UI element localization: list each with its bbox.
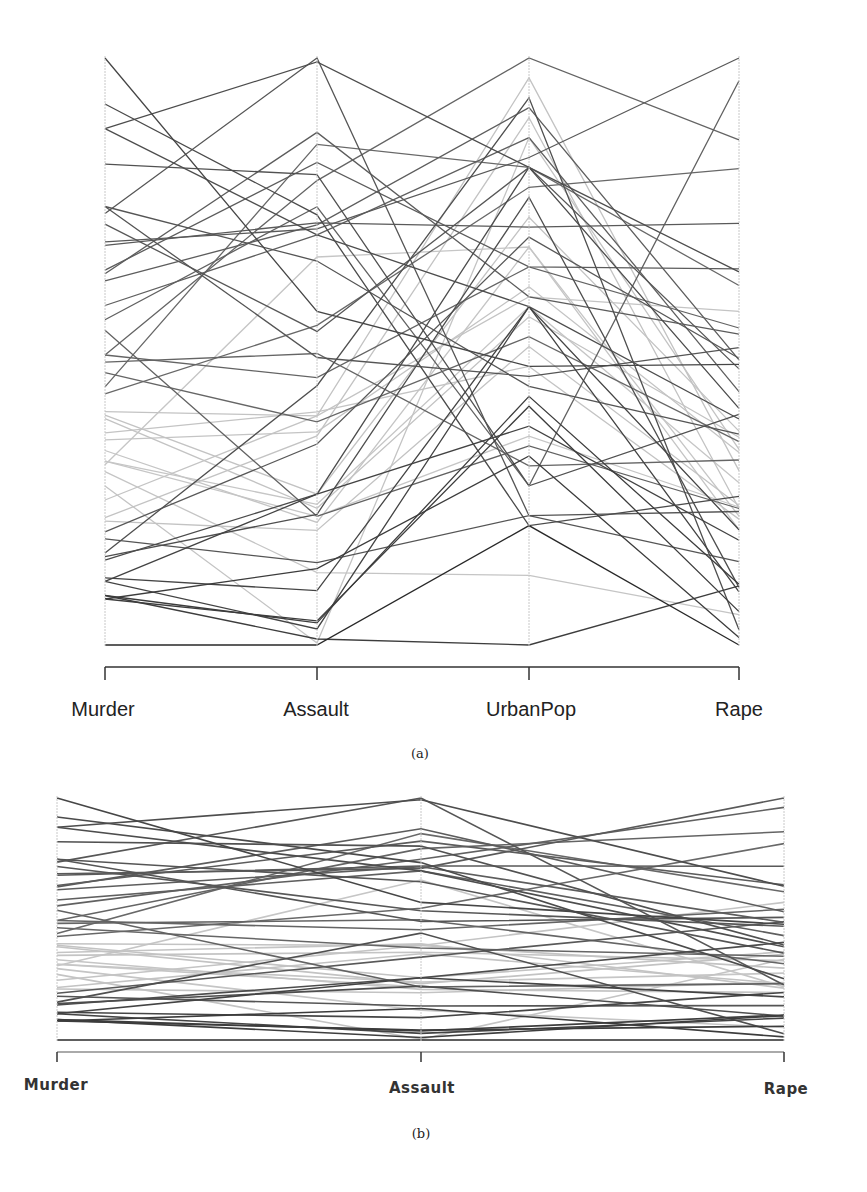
state-polyline: [105, 108, 739, 360]
state-polyline: [105, 207, 739, 435]
panel-a-axis-bracket: [105, 667, 739, 680]
panel-a-plot: Murder Assault UrbanPop Rape (a): [71, 56, 763, 761]
state-polyline: [105, 307, 739, 591]
axis-label-murder-b: Murder: [24, 1076, 88, 1094]
panel-a-polylines: [105, 58, 739, 645]
state-polyline: [105, 347, 739, 531]
axis-label-murder: Murder: [71, 698, 135, 720]
state-polyline: [105, 217, 739, 494]
axis-label-urbanpop: UrbanPop: [486, 698, 576, 720]
axis-label-assault: Assault: [283, 698, 349, 720]
state-polyline: [105, 472, 739, 615]
state-polyline: [105, 164, 739, 486]
panel-a-axes: [105, 56, 739, 647]
axis-label-rape-b: Rape: [764, 1080, 809, 1098]
state-polyline: [105, 237, 739, 532]
state-polyline: [105, 223, 739, 246]
state-polyline: [105, 58, 739, 366]
state-polyline: [105, 436, 739, 516]
panel-a-caption: (a): [411, 746, 429, 761]
panel-b-caption: (b): [412, 1126, 430, 1141]
state-polyline: [105, 586, 739, 645]
state-polyline: [105, 163, 739, 271]
state-polyline: [105, 307, 739, 629]
panel-b-axis-bracket: [57, 1052, 784, 1062]
axis-label-assault-b: Assault: [389, 1079, 455, 1097]
state-polyline: [105, 247, 739, 516]
axis-label-rape: Rape: [715, 698, 763, 720]
state-polyline: [105, 144, 739, 387]
parallel-coordinates-figure: Murder Assault UrbanPop Rape (a) Murder …: [0, 0, 867, 1192]
panel-b-plot: Murder Assault Rape (b): [24, 796, 808, 1141]
